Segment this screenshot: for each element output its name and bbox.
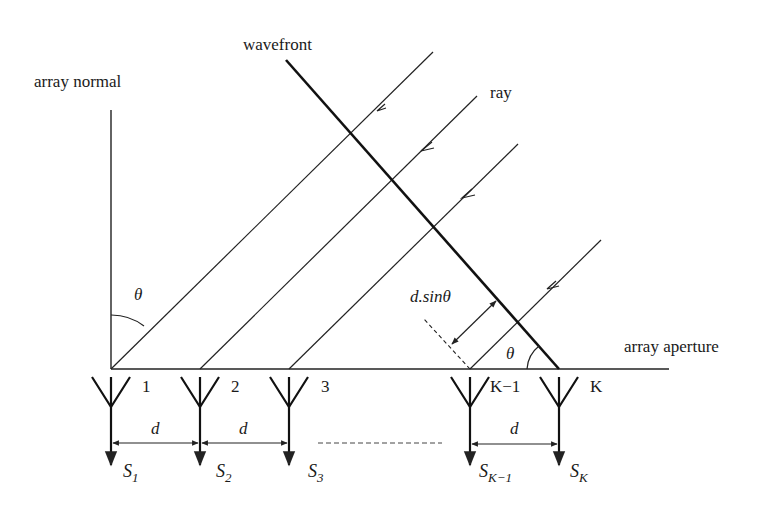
element-index-label: 3 [321,377,330,396]
svg-text:SK−1: SK−1 [479,461,512,485]
ray-2 [200,96,477,369]
element-index-label: 2 [231,377,240,396]
theta-arc-aperture [527,346,539,369]
wavefront-line [286,60,559,369]
element-index-label: K−1 [490,377,520,396]
label-array-aperture: array aperture [624,337,719,356]
signal-label-s2: S2 [216,461,232,485]
spacing-label: d [239,419,248,438]
ray-1 [111,52,433,369]
ray-arrowheads [377,104,559,289]
svg-text:S1: S1 [123,461,139,485]
antenna-icon [92,377,130,465]
dashed-perpendicular [423,318,470,369]
antenna-icon [181,377,219,465]
antenna-icon [540,377,578,465]
element-index-label: K [590,377,603,396]
label-array-normal: array normal [34,72,122,91]
svg-text:SK: SK [570,461,589,485]
path-difference-arrow [452,301,496,344]
svg-text:S3: S3 [308,461,324,485]
arrow-head-icon [462,189,475,198]
spacing-label: d [510,419,519,438]
svg-text:S2: S2 [216,461,232,485]
antenna-icon [451,377,489,465]
rays [111,52,601,369]
label-wavefront: wavefront [243,35,312,54]
label-path-difference: d.sinθ [410,287,451,306]
arrow-head-icon [421,142,434,151]
element-index-label: 1 [142,377,151,396]
label-theta-normal: θ [134,285,142,304]
signal-label-s3: S3 [308,461,324,485]
arrow-head-icon [547,281,559,289]
theta-arc-normal [111,315,144,326]
label-ray: ray [490,83,512,102]
antenna-icon [270,377,308,465]
label-theta-aperture: θ [506,344,514,363]
signal-label-sk-1: SK−1 [479,461,512,485]
spacing-label: d [151,419,160,438]
signal-label-s1: S1 [123,461,139,485]
ray-3 [289,144,518,369]
signal-label-sk: SK [570,461,589,485]
antenna-array-diagram: array normal wavefront ray array apertur… [0,0,770,511]
